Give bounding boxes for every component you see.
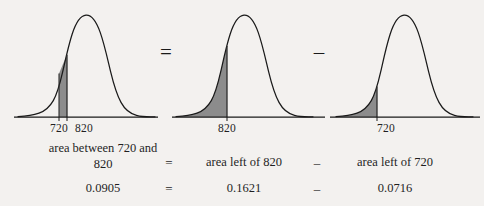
caption-minus-operator: – — [304, 155, 330, 171]
caption-equals-operator: = — [156, 155, 182, 171]
curve-1-tick-label-820: 820 — [68, 122, 100, 134]
curve-2-shaded-tail — [176, 46, 227, 117]
value-equals-operator: = — [156, 181, 182, 197]
curve-1-shaded-band — [59, 55, 67, 117]
caption-term-area-between: area between 720 and 820 — [44, 140, 162, 172]
figure-container: 720 820 820 720 = – area between 720 and… — [0, 0, 484, 206]
curve-2-tick-label-820: 820 — [211, 122, 243, 134]
curve-3-tick-label-720: 720 — [370, 122, 402, 134]
caption-term-area-left-of-820: area left of 820 — [182, 155, 306, 170]
curve-3-group — [330, 15, 480, 121]
diagram-minus-operator: – — [305, 42, 333, 63]
caption-term-area-left-of-720: area left of 720 — [330, 155, 460, 170]
value-area-left-of-720: 0.0716 — [330, 181, 460, 196]
diagram-equals-operator: = — [152, 42, 180, 63]
curve-2-outline — [176, 15, 313, 117]
curve-3-outline — [336, 15, 473, 117]
curve-2-group — [172, 15, 325, 121]
normal-curves-svg — [0, 0, 484, 206]
curve-1-outline — [18, 15, 155, 117]
value-area-left-of-820: 0.1621 — [182, 181, 306, 196]
value-area-between: 0.0905 — [44, 181, 162, 196]
value-minus-operator: – — [304, 181, 330, 197]
curve-1-group — [14, 15, 158, 121]
